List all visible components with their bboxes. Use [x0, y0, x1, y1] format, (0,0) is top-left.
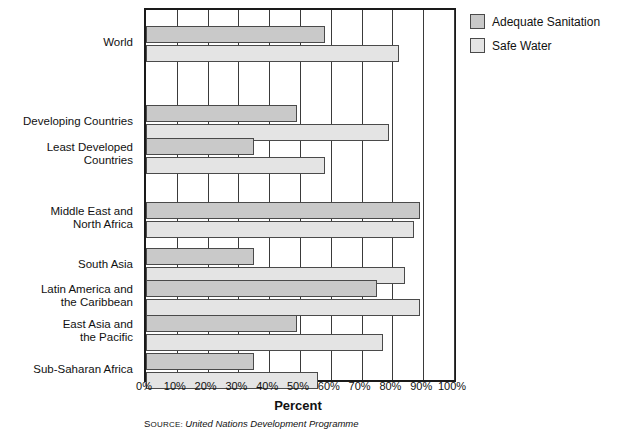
x-tick-label: 50% — [287, 380, 309, 392]
chart-legend: Adequate SanitationSafe Water — [470, 14, 620, 62]
source-keyword: SOURCE: — [144, 420, 185, 429]
category-label: East Asia and the Pacific — [63, 318, 133, 344]
x-tick-label: 30% — [225, 380, 247, 392]
gridline-50 — [300, 10, 301, 380]
x-tick-label: 80% — [379, 380, 401, 392]
plot-inner — [146, 10, 454, 380]
chart-figure: WorldDeveloping CountriesLeast Developed… — [0, 0, 626, 433]
gridline-90 — [423, 10, 424, 380]
legend-label: Adequate Sanitation — [492, 15, 600, 29]
x-tick-label: 60% — [318, 380, 340, 392]
legend-item[interactable]: Safe Water — [470, 38, 620, 53]
bar — [146, 334, 383, 351]
x-axis-title: Percent — [144, 398, 452, 413]
x-tick-label: 100% — [438, 380, 466, 392]
bar — [146, 221, 414, 238]
legend-swatch-icon — [470, 14, 485, 29]
bar — [146, 138, 254, 155]
gridline-60 — [331, 10, 332, 380]
bar — [146, 157, 325, 174]
legend-item[interactable]: Adequate Sanitation — [470, 14, 620, 29]
category-label: Sub-Saharan Africa — [33, 363, 133, 376]
category-label: Latin America and the Caribbean — [41, 283, 133, 309]
category-label: Least Developed Countries — [47, 141, 133, 167]
category-label: Middle East and North Africa — [51, 205, 133, 231]
x-tick-label: 0% — [136, 380, 152, 392]
legend-label: Safe Water — [492, 39, 552, 53]
bar — [146, 105, 297, 122]
x-tick-label: 90% — [410, 380, 432, 392]
plot-area — [144, 8, 456, 382]
bar — [146, 202, 420, 219]
x-tick-label: 10% — [164, 380, 186, 392]
source-note: SOURCE: United Nations Development Progr… — [144, 418, 359, 429]
legend-swatch-icon — [470, 38, 485, 53]
category-label: Developing Countries — [23, 115, 133, 128]
x-tick-label: 40% — [256, 380, 278, 392]
x-tick-label: 20% — [195, 380, 217, 392]
bar — [146, 353, 254, 370]
x-tick-label: 70% — [349, 380, 371, 392]
x-axis-tick-labels: 0%10%20%30%40%50%60%70%80%90%100% — [144, 380, 452, 396]
category-axis-labels: WorldDeveloping CountriesLeast Developed… — [0, 8, 139, 378]
bar — [146, 248, 254, 265]
gridline-70 — [362, 10, 363, 380]
gridline-80 — [392, 10, 393, 380]
category-label: South Asia — [78, 258, 133, 271]
category-label: World — [103, 36, 133, 49]
source-text: United Nations Development Programme — [185, 418, 358, 429]
bar — [146, 45, 399, 62]
gridline-100 — [454, 10, 455, 380]
bar — [146, 315, 297, 332]
bar — [146, 26, 325, 43]
bar — [146, 299, 420, 316]
bar — [146, 280, 377, 297]
